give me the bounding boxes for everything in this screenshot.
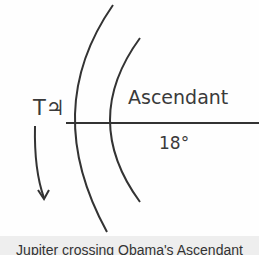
- outer-arc: [75, 5, 113, 232]
- transit-jupiter-label: T♃: [33, 96, 65, 120]
- inner-arc: [110, 38, 140, 202]
- ascendant-diagram: T♃ Ascendant 18°: [0, 0, 259, 236]
- degree-label: 18°: [159, 133, 189, 153]
- ascendant-label: Ascendant: [128, 86, 228, 108]
- motion-arrow: [35, 126, 44, 198]
- caption: Jupiter crossing Obama's Ascendant: [0, 236, 259, 255]
